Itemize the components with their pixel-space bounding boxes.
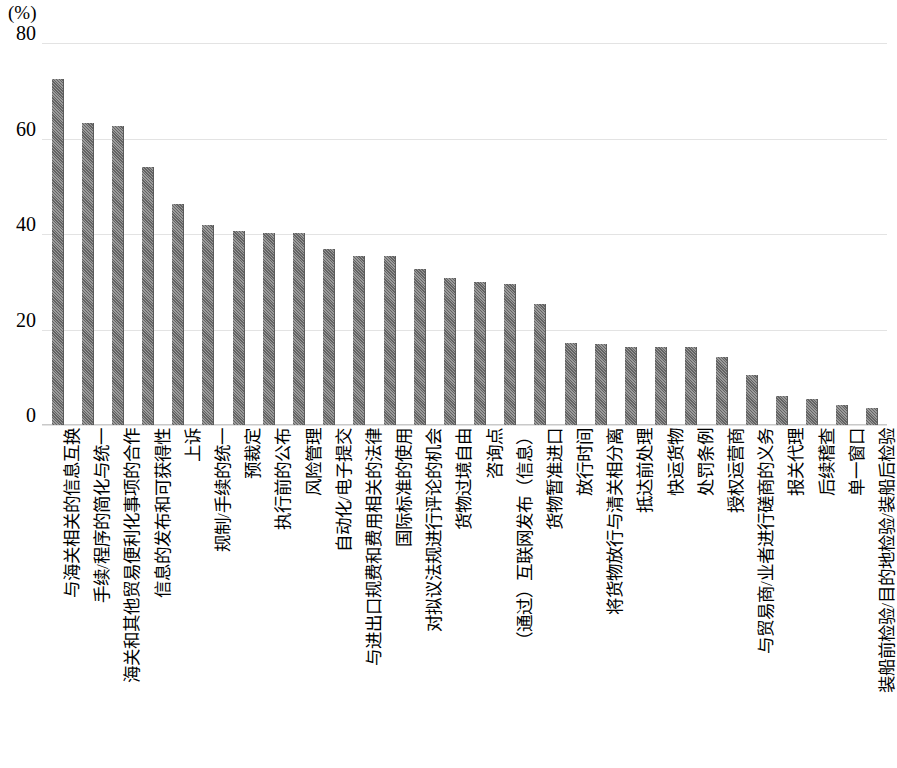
x-axis-category-label-text: 与贸易商/业者进行磋商的义务 [758,428,775,654]
x-axis-category-label: 放行时间 [577,428,594,496]
x-axis-category-label-text: 手续/程序的简化与统一 [94,428,111,603]
bar [625,347,637,425]
x-axis-category-label-text: 货物过境自由 [456,428,473,530]
x-axis-category-label: （通过）互联网发布（信息） [517,428,534,649]
bar [474,282,486,425]
bar [504,284,516,425]
x-axis-category-label-text: 风险管理 [306,428,323,496]
x-axis-category-label-text: 授权运营商 [728,428,745,513]
y-axis-tick-label: 60 [2,119,36,139]
bar [202,225,214,425]
x-axis-category-label-text: 海关和其他贸易便利化事项的合作 [124,428,141,683]
x-axis-category-label-text: 装船前检验/目的地检验/装船后检验 [879,428,896,693]
gridline [42,425,887,426]
y-axis-unit-label: (%) [8,2,36,24]
bar [685,347,697,425]
x-axis-category-label: 与进出口规费和费用相关的法律 [366,428,383,666]
x-axis-category-label-text: 抵达前处理 [637,428,654,513]
x-axis-category-label: 后续稽查 [819,428,836,496]
x-axis-category-label: 快运货物 [668,428,685,496]
bar [655,347,667,425]
x-axis-category-labels: 与海关相关的信息互换手续/程序的简化与统一海关和其他贸易便利化事项的合作信息的发… [42,428,887,766]
x-axis-category-label: 国际标准的使用 [396,428,413,547]
x-axis-category-label-text: 报关代理 [788,428,805,496]
x-axis-category-label: 报关代理 [788,428,805,496]
x-axis-category-label: 信息的发布和可获得性 [155,428,172,598]
x-axis-category-label: 预裁定 [245,428,262,479]
x-axis-category-label: 上诉 [185,428,202,462]
bar [836,405,848,425]
bars-layer [42,43,887,425]
x-axis-category-label: 咨询点 [487,428,504,479]
x-axis-category-label: 货物过境自由 [456,428,473,530]
x-axis-category-label: 执行前的公布 [275,428,292,530]
bar [806,399,818,425]
bar [172,204,184,425]
bar [323,249,335,425]
x-axis-category-label: 与贸易商/业者进行磋商的义务 [758,428,775,654]
x-axis-category-label-text: 与海关相关的信息互换 [64,428,81,598]
bar [716,357,728,425]
x-axis-category-label: 授权运营商 [728,428,745,513]
x-axis-category-label-text: 单一窗口 [849,428,866,496]
bar [384,256,396,426]
x-axis-category-label-text: 执行前的公布 [275,428,292,530]
bar [142,167,154,425]
x-axis-category-label: 货物暂准进口 [547,428,564,530]
bar [565,343,577,425]
y-axis-tick-labels: 020406080 [0,43,36,425]
x-axis-category-label: 装船前检验/目的地检验/装船后检验 [879,428,896,693]
y-axis-tick-label: 40 [2,214,36,234]
x-axis-category-label: 海关和其他贸易便利化事项的合作 [124,428,141,683]
x-axis-category-label-text: 放行时间 [577,428,594,496]
bar [595,344,607,425]
bar [82,123,94,425]
x-axis-category-label-text: 预裁定 [245,428,262,479]
x-axis-category-label-text: 将货物放行与清关相分离 [607,428,624,615]
x-axis-category-label-text: 后续稽查 [819,428,836,496]
x-axis-category-label: 处罚条例 [698,428,715,496]
bar [263,233,275,425]
bar [112,126,124,425]
x-axis-category-label-text: 自动化/电子提交 [336,428,353,552]
y-axis-tick-label: 80 [2,23,36,43]
x-axis-category-label-text: 对拟议法规进行评论的机会 [426,428,443,632]
x-axis-category-label: 单一窗口 [849,428,866,496]
bar [52,79,64,425]
bar [353,256,365,426]
x-axis-category-label-text: 咨询点 [487,428,504,479]
x-axis-category-label-text: 上诉 [185,428,202,462]
x-axis-category-label: 手续/程序的简化与统一 [94,428,111,603]
bar [293,233,305,425]
bar [414,269,426,425]
x-axis-category-label: 对拟议法规进行评论的机会 [426,428,443,632]
y-axis-tick-label: 0 [2,405,36,425]
x-axis-category-label: 抵达前处理 [637,428,654,513]
bar [233,231,245,425]
x-axis-category-label: 规制/手续的统一 [215,428,232,552]
x-axis-category-label-text: 与进出口规费和费用相关的法律 [366,428,383,666]
bar [444,278,456,425]
x-axis-category-label-text: （通过）互联网发布（信息） [517,428,534,649]
y-axis-tick-label: 20 [2,310,36,330]
bar [866,408,878,425]
bar [776,396,788,425]
bar [746,375,758,425]
x-axis-category-label-text: 信息的发布和可获得性 [155,428,172,598]
x-axis-category-label-text: 国际标准的使用 [396,428,413,547]
x-axis-category-label: 与海关相关的信息互换 [64,428,81,598]
x-axis-category-label-text: 快运货物 [668,428,685,496]
x-axis-category-label-text: 货物暂准进口 [547,428,564,530]
x-axis-category-label: 自动化/电子提交 [336,428,353,552]
x-axis-category-label: 风险管理 [306,428,323,496]
x-axis-category-label-text: 处罚条例 [698,428,715,496]
x-axis-category-label: 将货物放行与清关相分离 [607,428,624,615]
bar [534,304,546,425]
x-axis-category-label-text: 规制/手续的统一 [215,428,232,552]
